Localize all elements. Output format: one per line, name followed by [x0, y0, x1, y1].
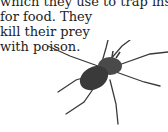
passage-line: for food. They — [0, 9, 168, 24]
passage-line: which they use to trap insects — [0, 0, 168, 9]
passage-line: kill their prey — [0, 24, 168, 39]
spider-illustration — [40, 40, 168, 132]
